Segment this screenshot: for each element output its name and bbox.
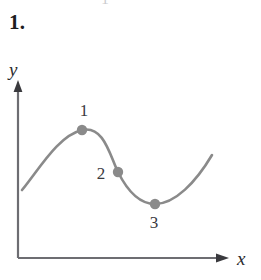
y-axis-label: y bbox=[7, 59, 18, 80]
y-axis-arrowhead bbox=[14, 80, 23, 92]
marked-point-3 bbox=[150, 199, 160, 209]
point-label-1: 1 bbox=[80, 101, 89, 120]
graph-plot: y x 123 bbox=[0, 0, 261, 280]
point-label-3: 3 bbox=[150, 213, 159, 232]
x-axis-arrowhead bbox=[216, 253, 229, 262]
marked-point-1 bbox=[77, 125, 87, 135]
marked-point-2 bbox=[113, 167, 123, 177]
x-axis-label: x bbox=[236, 248, 246, 269]
function-curve bbox=[22, 129, 212, 204]
marked-points-group: 123 bbox=[77, 101, 160, 232]
point-label-2: 2 bbox=[97, 164, 106, 183]
figure-container: 1 1. y x 123 bbox=[0, 0, 261, 280]
